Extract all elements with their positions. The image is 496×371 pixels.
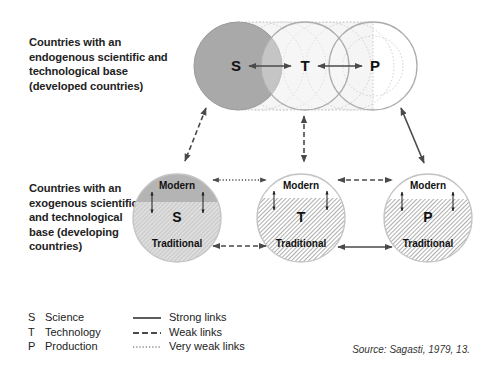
bottom-p-letter: P [423, 209, 432, 225]
bottom-s-letter: S [172, 209, 181, 225]
traditional-label: Traditional [403, 238, 454, 249]
legend-code-s: S [28, 311, 35, 323]
top-t-letter: T [300, 57, 309, 74]
modern-label: Modern [283, 180, 319, 191]
legend-label-technology: Technology [45, 326, 101, 338]
bottom-production-node: Modern P Traditional [384, 174, 472, 262]
top-row: S T P [194, 22, 417, 110]
legend-strong-links: Strong links [169, 311, 226, 323]
traditional-label: Traditional [276, 238, 327, 249]
legend-very-weak-links: Very weak links [169, 340, 245, 352]
legend-weak-links: Weak links [169, 326, 222, 338]
top-s-letter: S [231, 57, 241, 74]
top-p-letter: P [370, 57, 380, 74]
bottom-technology-node: Modern T Traditional [257, 174, 345, 262]
legend-label-production: Production [45, 340, 98, 352]
traditional-label: Traditional [152, 238, 203, 249]
bottom-science-node: Modern S Traditional [133, 174, 221, 262]
legend-code-p: P [28, 340, 35, 352]
source-citation: Source: Sagasti, 1979, 13. [352, 344, 470, 355]
vertical-link-s-weak [185, 108, 206, 161]
modern-label: Modern [410, 180, 446, 191]
legend-code-t: T [28, 326, 35, 338]
bottom-t-letter: T [297, 209, 306, 225]
vertical-link-p-strong [401, 108, 424, 163]
modern-label: Modern [159, 180, 195, 191]
legend-label-science: Science [45, 311, 84, 323]
